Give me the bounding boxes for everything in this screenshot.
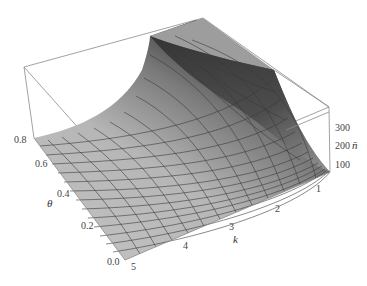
n-tick-300: 300 bbox=[335, 122, 350, 133]
k-tick-1: 1 bbox=[316, 183, 321, 194]
n-bar-axis: 300 200 100 n̄ bbox=[335, 122, 358, 170]
n-tick-100: 100 bbox=[335, 159, 350, 170]
theta-tick-0.8: 0.8 bbox=[14, 134, 27, 145]
theta-tick-0.6: 0.6 bbox=[35, 158, 48, 169]
k-axis-label: k bbox=[233, 233, 239, 245]
k-tick-5: 5 bbox=[131, 261, 136, 272]
n-tick-200: 200 bbox=[335, 140, 350, 151]
k-tick-2: 2 bbox=[275, 203, 280, 214]
theta-tick-0.4: 0.4 bbox=[57, 188, 70, 199]
theta-axis-label: θ bbox=[47, 197, 53, 209]
n-bar-axis-label: n̄ bbox=[352, 139, 358, 151]
k-tick-4: 4 bbox=[183, 240, 188, 251]
surface-plot-3d: 0.8 0.6 0.4 0.2 0.0 θ 5 4 3 2 1 k 300 20… bbox=[0, 0, 367, 286]
theta-tick-0.2: 0.2 bbox=[81, 220, 94, 231]
k-tick-3: 3 bbox=[229, 221, 234, 232]
theta-tick-0.0: 0.0 bbox=[107, 256, 120, 267]
